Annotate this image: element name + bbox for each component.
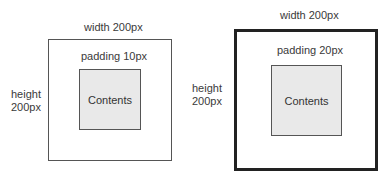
- contents-box: Contents: [271, 65, 342, 136]
- contents-label: Contents: [88, 94, 132, 106]
- width-label: width 200px: [280, 9, 339, 22]
- height-label-line2: 200px: [192, 95, 222, 108]
- height-label-line2: 200px: [11, 101, 41, 114]
- contents-label: Contents: [284, 95, 328, 107]
- height-label-line1: height: [192, 82, 222, 95]
- padding-label: padding 20px: [277, 44, 343, 57]
- padding-label: padding 10px: [81, 50, 147, 63]
- height-label-line1: height: [11, 88, 41, 101]
- contents-box: Contents: [79, 69, 141, 130]
- width-label: width 200px: [84, 21, 143, 34]
